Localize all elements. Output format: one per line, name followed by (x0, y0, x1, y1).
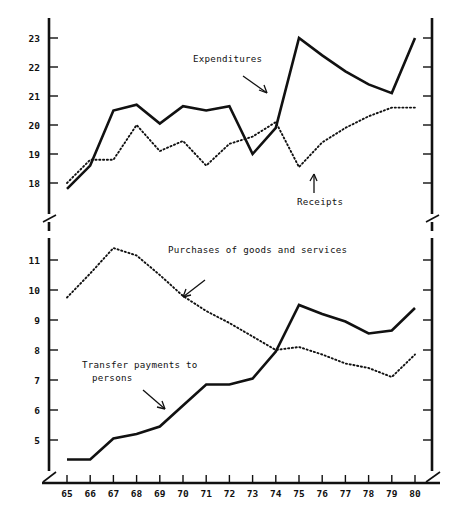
upper-left-ticks (49, 38, 58, 183)
x-tick-label-75: 75 (293, 488, 305, 499)
annotation-receipts: Receipts (297, 196, 343, 207)
x-tick-label-68: 68 (131, 488, 143, 499)
upper-panel: 23 22 21 20 19 18 Expenditures Receipts (29, 18, 439, 231)
x-tick-label-79: 79 (386, 488, 398, 499)
chart-canvas: 23 22 21 20 19 18 Expenditures Receipts (0, 0, 466, 511)
chart-figure: 23 22 21 20 19 18 Expenditures Receipts (0, 0, 466, 511)
upper-right-axis-break-icon (426, 215, 439, 222)
annotation-expenditures: Expenditures (193, 53, 262, 64)
upper-ytick-label-22: 22 (29, 62, 40, 73)
upper-ytick-label-18: 18 (29, 178, 41, 189)
lower-right-ticks (423, 260, 432, 440)
x-tick-label-65: 65 (61, 488, 73, 499)
lower-ytick-label-8: 8 (34, 345, 40, 356)
annotation-purchases-arrow (183, 280, 205, 297)
x-tick-label-70: 70 (177, 488, 189, 499)
lower-ytick-label-11: 11 (29, 255, 41, 266)
upper-right-ticks (423, 38, 432, 183)
annotation-expenditures-arrow (243, 76, 267, 93)
x-tick-label-72: 72 (224, 488, 235, 499)
upper-ytick-label-23: 23 (29, 33, 41, 44)
annotation-transfer-line2: persons (92, 372, 132, 383)
annotation-purchases: Purchases of goods and services (168, 244, 347, 255)
upper-ytick-label-20: 20 (29, 120, 41, 131)
lower-ytick-label-10: 10 (29, 285, 41, 296)
x-tick-label-80: 80 (409, 488, 421, 499)
lower-left-axis-break-icon (43, 472, 56, 482)
lower-ytick-label-9: 9 (34, 315, 40, 326)
lower-ytick-label-7: 7 (34, 375, 40, 386)
x-tick-label-76: 76 (316, 488, 328, 499)
annotation-transfer-line1: Transfer payments to (82, 359, 198, 370)
upper-ytick-label-19: 19 (29, 149, 41, 160)
x-tick-label-67: 67 (108, 488, 119, 499)
x-tick-label-74: 74 (270, 488, 282, 499)
x-tick-label-78: 78 (363, 488, 375, 499)
x-tick-label-73: 73 (247, 488, 259, 499)
x-tick-label-77: 77 (340, 488, 351, 499)
annotation-transfer-arrow (143, 390, 165, 409)
series-line-receipts (67, 108, 415, 183)
series-line-purchases (67, 248, 415, 377)
x-tick-label-71: 71 (200, 488, 212, 499)
lower-panel: 11 10 9 8 7 6 5 Purchases of goods and s… (29, 238, 440, 499)
x-tick-label-69: 69 (154, 488, 166, 499)
lower-left-ticks (49, 260, 58, 440)
upper-left-axis-break-icon (43, 215, 56, 222)
lower-ytick-label-5: 5 (34, 435, 40, 446)
upper-ytick-label-21: 21 (29, 91, 41, 102)
lower-right-axis-break-icon (426, 472, 440, 482)
x-tick-label-66: 66 (84, 488, 96, 499)
x-axis-labels: 65666768697071727374757677787980 (61, 488, 421, 499)
lower-ytick-label-6: 6 (34, 405, 40, 416)
